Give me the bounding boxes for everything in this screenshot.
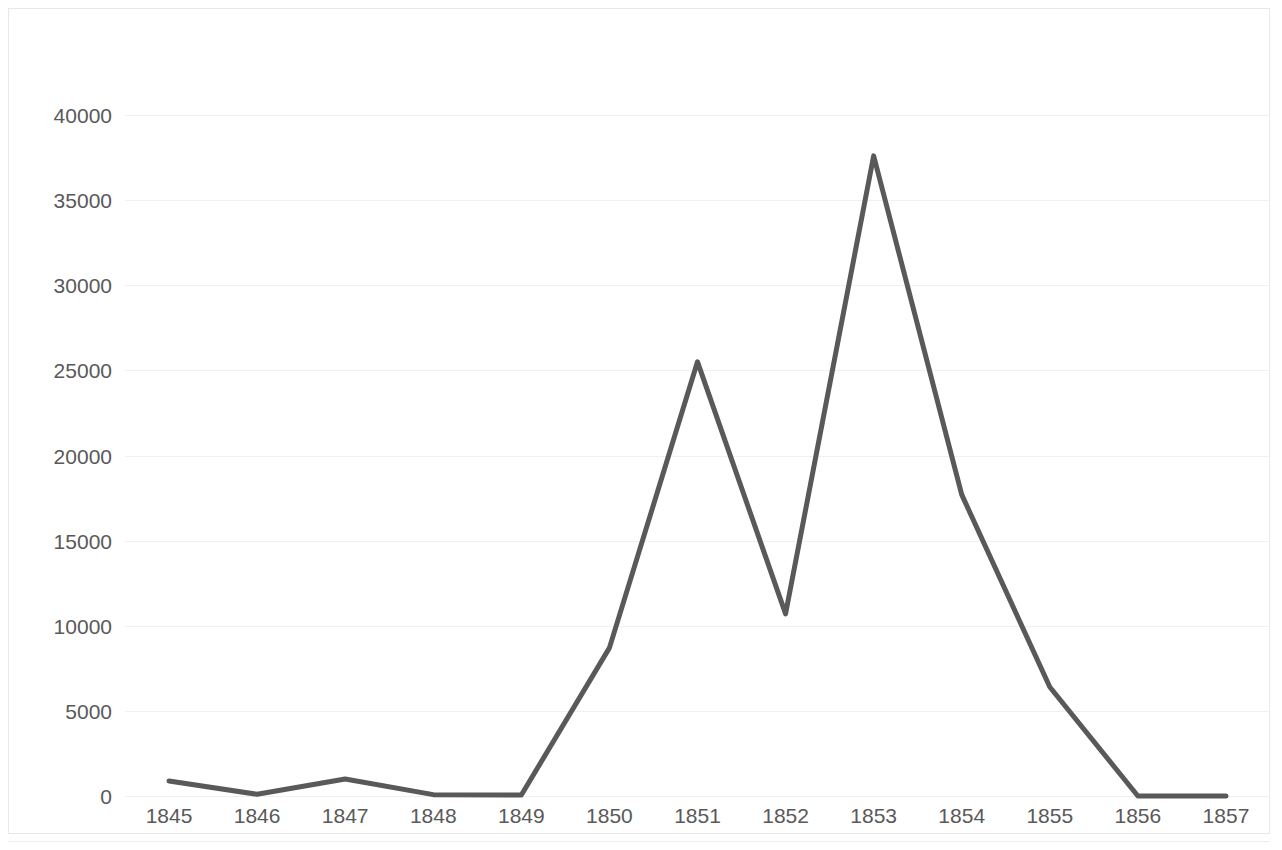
series-line-svg <box>125 115 1270 796</box>
y-axis-tick-label: 35000 <box>54 190 112 211</box>
x-axis-tick-label: 1852 <box>762 805 809 826</box>
bottom-rule <box>8 841 1270 842</box>
plot-area <box>125 115 1270 796</box>
y-axis-tick-label: 5000 <box>65 700 112 721</box>
y-axis-tick-label: 10000 <box>54 615 112 636</box>
y-axis-tick-label: 30000 <box>54 275 112 296</box>
x-axis-tick-label: 1846 <box>234 805 281 826</box>
y-axis-tick-label: 20000 <box>54 445 112 466</box>
y-axis-tick-label: 25000 <box>54 360 112 381</box>
x-axis-tick-label: 1850 <box>586 805 633 826</box>
y-axis-tick-label: 0 <box>100 786 112 807</box>
x-axis-tick-label: 1855 <box>1026 805 1073 826</box>
x-axis-tick-label: 1854 <box>938 805 985 826</box>
x-axis-tick-label: 1848 <box>410 805 457 826</box>
x-axis-tick-label: 1851 <box>674 805 721 826</box>
y-axis-tick-label: 40000 <box>54 105 112 126</box>
x-axis-tick-label: 1857 <box>1203 805 1250 826</box>
y-axis-tick-label: 15000 <box>54 530 112 551</box>
x-axis-tick-label: 1847 <box>322 805 369 826</box>
x-axis-tick-label: 1856 <box>1115 805 1162 826</box>
series-line-path <box>169 156 1226 796</box>
x-axis-tick-label: 1849 <box>498 805 545 826</box>
line-chart: 0500010000150002000025000300003500040000… <box>0 0 1282 850</box>
x-axis-tick-label: 1853 <box>850 805 897 826</box>
x-axis-tick-label: 1845 <box>146 805 193 826</box>
x-axis-tick-labels: 1845184618471848184918501851185218531854… <box>125 805 1270 835</box>
y-axis-tick-labels: 0500010000150002000025000300003500040000 <box>0 0 125 850</box>
